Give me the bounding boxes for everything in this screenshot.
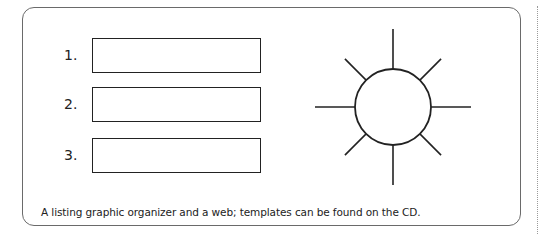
figure-caption: A listing graphic organizer and a web; t… — [41, 206, 420, 218]
page-margin-divider — [537, 6, 538, 234]
web-ray — [420, 134, 441, 155]
web-ray — [345, 134, 366, 155]
web-ray — [345, 59, 366, 80]
web-ray — [420, 59, 441, 80]
web-center-circle — [355, 69, 431, 145]
web-diagram — [0, 0, 544, 234]
